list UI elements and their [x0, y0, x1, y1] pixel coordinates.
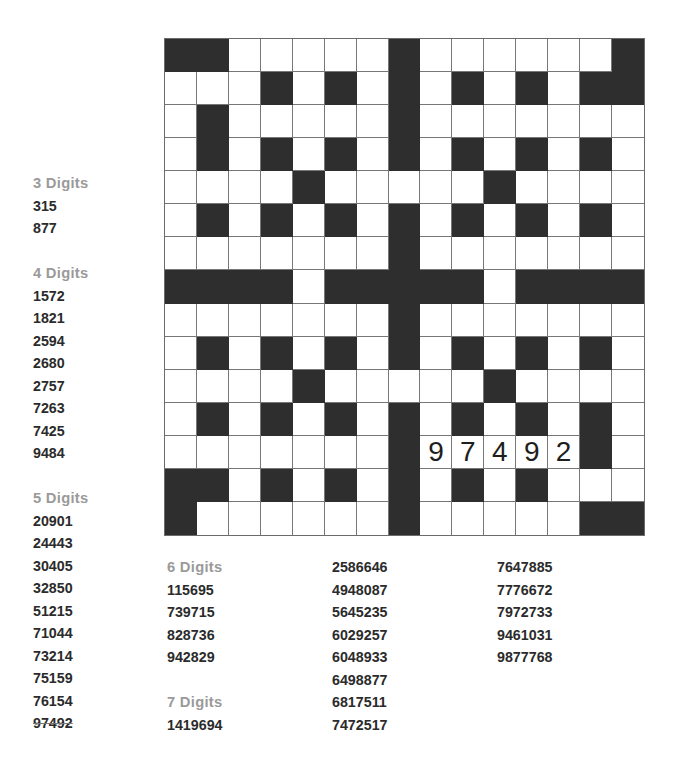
- grid-cell[interactable]: [548, 337, 580, 370]
- grid-cell[interactable]: [612, 304, 644, 337]
- entry-7-digit[interactable]: 9877768: [497, 646, 553, 669]
- grid-cell[interactable]: [229, 436, 261, 469]
- grid-cell[interactable]: [197, 72, 229, 105]
- entry-7-digit[interactable]: 6048933: [332, 646, 388, 669]
- grid-cell[interactable]: [293, 337, 325, 370]
- grid-cell[interactable]: [612, 403, 644, 436]
- grid-cell[interactable]: [357, 370, 389, 403]
- entry-7-digit[interactable]: 9461031: [497, 624, 553, 647]
- grid-cell[interactable]: [197, 304, 229, 337]
- entry-6-digit[interactable]: 828736: [167, 624, 223, 647]
- grid-cell[interactable]: [165, 403, 197, 436]
- grid-cell[interactable]: [452, 237, 484, 270]
- grid-cell[interactable]: [612, 138, 644, 171]
- grid-cell[interactable]: [229, 469, 261, 502]
- entry-5-digit[interactable]: 24443: [33, 532, 87, 555]
- grid-cell[interactable]: [420, 72, 452, 105]
- grid-cell[interactable]: [261, 436, 293, 469]
- entry-7-digit[interactable]: 4948087: [332, 579, 388, 602]
- grid-cell[interactable]: [293, 237, 325, 270]
- grid-cell[interactable]: [165, 337, 197, 370]
- entry-7-digit[interactable]: 7472517: [332, 714, 388, 737]
- grid-cell[interactable]: [548, 502, 580, 535]
- grid-cell[interactable]: [229, 138, 261, 171]
- entry-7-digit[interactable]: 6498877: [332, 669, 388, 692]
- grid-cell[interactable]: [229, 171, 261, 204]
- grid-cell[interactable]: [357, 72, 389, 105]
- grid-cell[interactable]: [229, 105, 261, 138]
- grid-cell[interactable]: [612, 337, 644, 370]
- grid-cell[interactable]: [293, 469, 325, 502]
- grid-cell[interactable]: [357, 469, 389, 502]
- entry-5-digit[interactable]: 32850: [33, 577, 87, 600]
- grid-cell[interactable]: [516, 304, 548, 337]
- grid-cell[interactable]: [420, 469, 452, 502]
- grid-cell[interactable]: [293, 436, 325, 469]
- grid-cell[interactable]: [261, 105, 293, 138]
- grid-cell[interactable]: [484, 39, 516, 72]
- grid-cell[interactable]: [325, 436, 357, 469]
- grid-cell[interactable]: [548, 105, 580, 138]
- grid-cell[interactable]: [548, 403, 580, 436]
- grid-cell[interactable]: [293, 270, 325, 303]
- entry-7-digit[interactable]: 5645235: [332, 601, 388, 624]
- grid-cell[interactable]: [165, 138, 197, 171]
- grid-cell[interactable]: [357, 237, 389, 270]
- grid-cell[interactable]: [420, 502, 452, 535]
- grid-cell[interactable]: [484, 469, 516, 502]
- grid-cell[interactable]: [197, 237, 229, 270]
- grid-cell[interactable]: [165, 304, 197, 337]
- grid-cell[interactable]: [420, 204, 452, 237]
- grid-cell[interactable]: [357, 502, 389, 535]
- grid-cell[interactable]: [420, 403, 452, 436]
- grid-cell[interactable]: [293, 105, 325, 138]
- grid-cell[interactable]: [325, 370, 357, 403]
- grid-cell[interactable]: [420, 237, 452, 270]
- entry-4-digit[interactable]: 7263: [33, 397, 87, 420]
- grid-cell[interactable]: [197, 370, 229, 403]
- grid-cell[interactable]: [580, 237, 612, 270]
- grid-cell[interactable]: [261, 304, 293, 337]
- grid-cell[interactable]: [197, 171, 229, 204]
- grid-cell[interactable]: [357, 436, 389, 469]
- grid-cell[interactable]: [516, 105, 548, 138]
- grid-cell[interactable]: [197, 502, 229, 535]
- entry-4-digit[interactable]: 2757: [33, 375, 87, 398]
- grid-cell[interactable]: [484, 105, 516, 138]
- grid-cell[interactable]: [357, 403, 389, 436]
- entry-4-digit[interactable]: 2594: [33, 330, 87, 353]
- grid-cell[interactable]: [580, 105, 612, 138]
- grid-cell[interactable]: [325, 502, 357, 535]
- grid-cell[interactable]: [165, 105, 197, 138]
- grid-cell[interactable]: [357, 171, 389, 204]
- entry-5-digit[interactable]: 76154: [33, 690, 87, 713]
- grid-cell[interactable]: [293, 304, 325, 337]
- grid-cell[interactable]: [612, 105, 644, 138]
- grid-cell[interactable]: [389, 370, 421, 403]
- grid-cell[interactable]: [452, 502, 484, 535]
- grid-cell[interactable]: [261, 502, 293, 535]
- grid-cell[interactable]: [197, 436, 229, 469]
- grid-cell[interactable]: [357, 337, 389, 370]
- entry-7-digit[interactable]: 6817511: [332, 691, 388, 714]
- grid-cell[interactable]: [229, 72, 261, 105]
- grid-cell[interactable]: [389, 171, 421, 204]
- grid-cell[interactable]: [452, 105, 484, 138]
- entry-7-digit[interactable]: 6029257: [332, 624, 388, 647]
- grid-cell[interactable]: [325, 171, 357, 204]
- entry-5-digit[interactable]: 73214: [33, 645, 87, 668]
- grid-cell[interactable]: [484, 337, 516, 370]
- entry-3-digit[interactable]: 315: [33, 195, 87, 218]
- grid-cell[interactable]: [293, 39, 325, 72]
- grid-cell[interactable]: [580, 370, 612, 403]
- entry-7-digit[interactable]: 7776672: [497, 579, 553, 602]
- grid-cell[interactable]: [357, 105, 389, 138]
- grid-cell[interactable]: [293, 403, 325, 436]
- entry-7-digit[interactable]: 2586646: [332, 556, 388, 579]
- entry-4-digit[interactable]: 1572: [33, 285, 87, 308]
- grid-cell[interactable]: [548, 39, 580, 72]
- grid-cell[interactable]: [293, 502, 325, 535]
- grid-cell[interactable]: [548, 171, 580, 204]
- grid-cell[interactable]: [516, 502, 548, 535]
- entry-4-digit[interactable]: 7425: [33, 420, 87, 443]
